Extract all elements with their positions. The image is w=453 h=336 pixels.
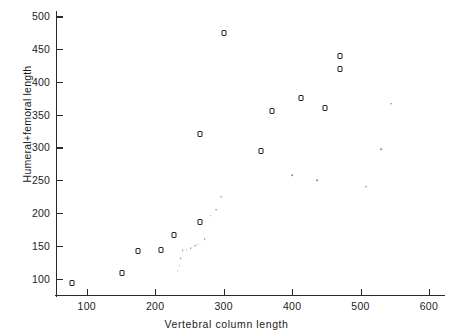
- y-tick-500: [57, 16, 63, 17]
- data-point: [204, 238, 206, 240]
- x-tick-200: [155, 289, 156, 295]
- y-tick-label-100: 100: [14, 273, 50, 285]
- data-point: [365, 186, 367, 188]
- data-point: [180, 257, 182, 259]
- y-tick-450: [57, 49, 63, 50]
- data-point: [197, 244, 199, 246]
- y-axis-title: Humeral+femoral length: [21, 49, 33, 199]
- y-tick-200: [57, 213, 63, 214]
- y-tick-350: [57, 115, 63, 116]
- y-axis-line: [56, 11, 57, 297]
- y-tick-300: [57, 147, 63, 148]
- x-tick-600: [429, 289, 430, 295]
- data-point: [337, 66, 342, 72]
- y-tick-label-150: 150: [14, 240, 50, 252]
- data-point: [221, 30, 226, 36]
- x-axis-line: [55, 295, 445, 296]
- x-tick-label-600: 600: [420, 300, 438, 312]
- y-tick-400: [57, 82, 63, 83]
- data-point: [69, 280, 74, 286]
- data-point: [291, 174, 293, 176]
- data-point: [259, 148, 264, 154]
- data-point: [186, 249, 188, 251]
- data-point: [190, 248, 192, 250]
- data-point: [179, 265, 181, 267]
- data-point: [197, 131, 202, 137]
- data-point: [298, 95, 303, 101]
- data-point: [177, 270, 179, 272]
- x-tick-100: [87, 289, 88, 295]
- data-point: [380, 149, 382, 151]
- y-tick-250: [57, 180, 63, 181]
- y-tick-label-500: 500: [14, 10, 50, 22]
- data-point: [269, 108, 274, 114]
- data-point: [158, 247, 163, 253]
- x-tick-label-500: 500: [351, 300, 369, 312]
- x-tick-label-400: 400: [283, 300, 301, 312]
- data-point: [322, 105, 327, 111]
- x-tick-500: [361, 289, 362, 295]
- data-point: [210, 215, 212, 217]
- scatter-plot-figure: 100150200250300350400450500 100200300400…: [0, 0, 453, 336]
- x-tick-label-100: 100: [78, 300, 96, 312]
- data-point: [172, 232, 177, 238]
- data-point: [317, 179, 319, 181]
- data-point: [337, 53, 342, 59]
- y-tick-label-200: 200: [14, 207, 50, 219]
- x-tick-label-200: 200: [146, 300, 164, 312]
- y-tick-100: [57, 279, 63, 280]
- data-point: [390, 103, 392, 105]
- x-axis-title: Vertebral column length: [0, 318, 453, 330]
- y-tick-150: [57, 246, 63, 247]
- x-tick-400: [292, 289, 293, 295]
- data-point: [220, 196, 222, 198]
- x-tick-300: [224, 289, 225, 295]
- data-point: [215, 209, 217, 211]
- data-point: [197, 219, 202, 225]
- x-tick-label-300: 300: [214, 300, 232, 312]
- data-point: [120, 270, 125, 276]
- data-point: [182, 250, 184, 252]
- data-point: [194, 245, 196, 247]
- data-point: [136, 248, 141, 254]
